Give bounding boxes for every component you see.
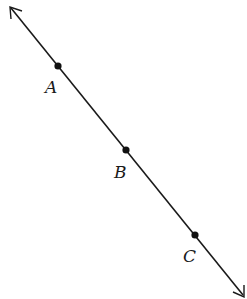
label-c: C xyxy=(183,246,196,266)
label-a: A xyxy=(43,77,57,97)
line-diagram: A B C xyxy=(0,0,247,299)
point-c xyxy=(191,231,198,238)
point-a xyxy=(54,62,61,69)
label-b: B xyxy=(113,162,127,182)
point-b xyxy=(122,146,129,153)
